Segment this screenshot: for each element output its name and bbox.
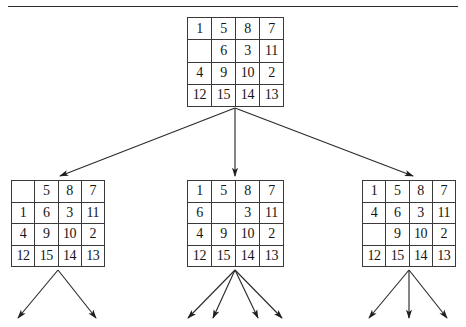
- edges-below-right-child: [369, 270, 447, 318]
- puzzle-cell: 6: [386, 203, 409, 225]
- puzzle-cell: 9: [212, 63, 236, 85]
- top-horizontal-rule: [8, 6, 458, 7]
- edges-below-middle-child: [188, 270, 282, 318]
- puzzle-cell: 14: [236, 85, 260, 107]
- puzzle-cell: 8: [236, 18, 260, 40]
- puzzle-cell: 3: [236, 40, 260, 62]
- puzzle-cell: 15: [212, 85, 236, 107]
- puzzle-cell: 13: [82, 246, 105, 268]
- edge-middle-child-4: [235, 270, 282, 318]
- puzzle-cell: 13: [260, 246, 284, 268]
- puzzle-cell: 8: [410, 181, 433, 203]
- edge-middle-child-3: [235, 270, 258, 318]
- puzzle-cell: 9: [35, 224, 58, 246]
- puzzle-cell: 3: [59, 203, 82, 225]
- puzzle-cell: 3: [410, 203, 433, 225]
- puzzle-cell: 5: [386, 181, 409, 203]
- puzzle-cell: 11: [260, 203, 284, 225]
- puzzle-cell-blank: [188, 40, 212, 62]
- puzzle-cell: 7: [260, 181, 284, 203]
- puzzle-cell: 1: [363, 181, 386, 203]
- search-tree-figure: 158763114910212151413 587163114910212151…: [0, 0, 466, 327]
- puzzle-cell: 14: [59, 246, 82, 268]
- puzzle-grid-child-left: 587163114910212151413: [11, 180, 105, 267]
- puzzle-cell: 10: [59, 224, 82, 246]
- puzzle-grid-root: 158763114910212151413: [187, 17, 284, 107]
- puzzle-cell: 11: [433, 203, 456, 225]
- edge-left-child-2: [58, 270, 96, 318]
- puzzle-cell: 7: [82, 181, 105, 203]
- puzzle-cell: 9: [212, 224, 236, 246]
- puzzle-cell: 13: [433, 246, 456, 268]
- edge-root-to-right: [235, 108, 413, 176]
- puzzle-cell: 12: [12, 246, 35, 268]
- puzzle-cell: 6: [35, 203, 58, 225]
- puzzle-cell: 4: [188, 224, 212, 246]
- puzzle-cell: 2: [82, 224, 105, 246]
- puzzle-cell: 4: [188, 63, 212, 85]
- puzzle-cell: 8: [59, 181, 82, 203]
- puzzle-cell: 12: [188, 246, 212, 268]
- edge-middle-child-1: [188, 270, 235, 318]
- puzzle-cell: 2: [260, 224, 284, 246]
- puzzle-cell: 7: [433, 181, 456, 203]
- puzzle-cell: 10: [410, 224, 433, 246]
- puzzle-cell: 3: [236, 203, 260, 225]
- puzzle-cell: 11: [260, 40, 284, 62]
- puzzle-cell: 10: [236, 224, 260, 246]
- puzzle-cell: 13: [260, 85, 284, 107]
- puzzle-cell: 5: [212, 181, 236, 203]
- puzzle-cell: 5: [35, 181, 58, 203]
- edge-root-to-left: [60, 108, 235, 176]
- puzzle-cell: 1: [188, 18, 212, 40]
- puzzle-cell: 11: [82, 203, 105, 225]
- puzzle-cell: 4: [12, 224, 35, 246]
- puzzle-cell: 1: [12, 203, 35, 225]
- puzzle-cell: 6: [188, 203, 212, 225]
- edges-below-left-child: [18, 270, 96, 318]
- edges-from-root: [60, 108, 413, 176]
- puzzle-cell: 12: [363, 246, 386, 268]
- puzzle-cell-blank: [212, 203, 236, 225]
- puzzle-cell: 14: [236, 246, 260, 268]
- puzzle-cell: 2: [260, 63, 284, 85]
- puzzle-grid-child-middle: 158763114910212151413: [187, 180, 284, 267]
- puzzle-cell: 9: [386, 224, 409, 246]
- edge-right-child-3: [409, 270, 447, 318]
- puzzle-cell: 5: [212, 18, 236, 40]
- puzzle-grid-child-right: 158746311910212151413: [362, 180, 456, 267]
- puzzle-cell: 15: [386, 246, 409, 268]
- puzzle-cell: 8: [236, 181, 260, 203]
- puzzle-cell: 10: [236, 63, 260, 85]
- puzzle-cell: 12: [188, 85, 212, 107]
- puzzle-cell: 1: [188, 181, 212, 203]
- puzzle-cell-blank: [363, 224, 386, 246]
- puzzle-cell: 7: [260, 18, 284, 40]
- puzzle-cell: 2: [433, 224, 456, 246]
- puzzle-cell: 4: [363, 203, 386, 225]
- edge-middle-child-2: [213, 270, 235, 318]
- puzzle-cell-blank: [12, 181, 35, 203]
- puzzle-cell: 15: [35, 246, 58, 268]
- puzzle-cell: 6: [212, 40, 236, 62]
- edge-left-child-1: [18, 270, 58, 318]
- puzzle-cell: 15: [212, 246, 236, 268]
- edge-right-child-1: [369, 270, 409, 318]
- puzzle-cell: 14: [410, 246, 433, 268]
